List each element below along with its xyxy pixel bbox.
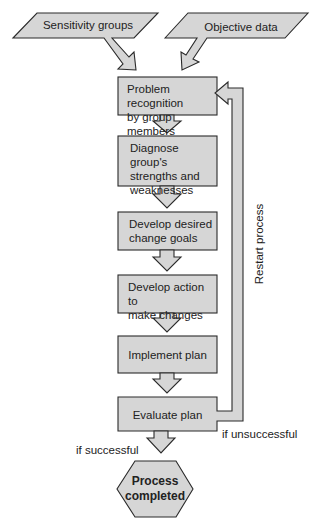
step-label-3: Develop desired change goals — [129, 217, 215, 245]
step-label-5: Implement plan — [118, 348, 217, 362]
step-label-1: Problem recognition by group members — [127, 82, 217, 138]
step-1-line-1: Problem recognition — [127, 82, 217, 110]
step-3-line-1: Develop desired — [129, 217, 215, 231]
if-unsuccessful-label: if unsuccessful — [222, 427, 319, 441]
step-label-6: Evaluate plan — [118, 408, 217, 422]
input-label-sensitivity-groups: Sensitivity groups — [38, 18, 138, 32]
down-arrow-3 — [153, 250, 181, 271]
input-label-objective-data: Objective data — [196, 20, 286, 34]
step-2-line-1: Diagnose group's — [130, 141, 216, 169]
step-4-line-1: Develop action to — [128, 280, 216, 308]
if-successful-label: if successful — [76, 443, 156, 457]
restart-process-label: Restart process — [252, 194, 266, 294]
step-3-line-2: change goals — [129, 231, 215, 245]
step-6-line-1: Evaluate plan — [118, 408, 217, 422]
flowchart-diagram — [0, 0, 319, 520]
step-1-line-2: by group members — [127, 110, 217, 138]
step-2-line-2: strengths and — [130, 169, 216, 183]
step-2-line-3: weaknesses — [130, 183, 216, 197]
step-label-4: Develop action to make changes — [128, 280, 216, 322]
terminal-label: Process completed — [117, 474, 193, 504]
step-5-line-1: Implement plan — [118, 348, 217, 362]
terminal-line-1: Process — [117, 474, 193, 489]
down-arrow-5 — [153, 373, 181, 393]
step-label-2: Diagnose group's strengths and weaknesse… — [130, 141, 216, 197]
step-4-line-2: make changes — [128, 308, 216, 322]
terminal-line-2: completed — [117, 489, 193, 504]
